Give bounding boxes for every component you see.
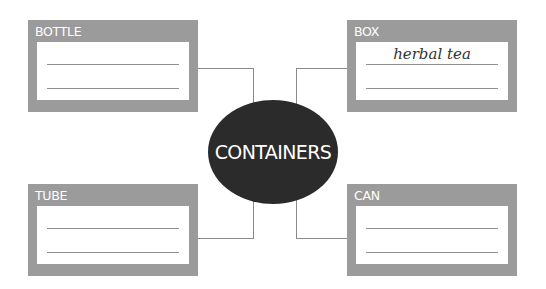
card-tube: TUBE <box>28 184 198 276</box>
card-bottle: BOTTLE <box>28 20 198 112</box>
answer-line <box>366 252 498 253</box>
answer-line <box>366 228 498 229</box>
center-node-containers: CONTAINERS <box>208 100 338 204</box>
answer-line <box>47 64 179 65</box>
connector-can-v <box>296 196 297 239</box>
answer-line <box>47 252 179 253</box>
answer-line <box>366 64 498 65</box>
connector-box-v <box>296 68 297 108</box>
card-can-title: CAN <box>354 188 380 203</box>
connector-can-h <box>296 238 347 239</box>
card-tube-answer-area[interactable] <box>37 206 189 264</box>
card-box: BOX herbal tea <box>347 20 517 112</box>
card-can-answer-area[interactable] <box>356 206 508 264</box>
connector-bottle-h <box>198 68 254 69</box>
answer-line <box>47 228 179 229</box>
card-box-answer-area[interactable]: herbal tea <box>356 42 508 100</box>
connector-tube-h <box>198 238 254 239</box>
card-bottle-title: BOTTLE <box>35 24 81 39</box>
card-box-answer-1[interactable]: herbal tea <box>356 45 508 63</box>
answer-line <box>366 88 498 89</box>
answer-line <box>47 88 179 89</box>
connector-tube-v <box>253 196 254 239</box>
center-node-label: CONTAINERS <box>215 141 332 163</box>
card-bottle-answer-area[interactable] <box>37 42 189 100</box>
card-box-title: BOX <box>354 24 379 39</box>
card-can: CAN <box>347 184 517 276</box>
card-tube-title: TUBE <box>35 188 67 203</box>
connector-box-h <box>296 68 347 69</box>
